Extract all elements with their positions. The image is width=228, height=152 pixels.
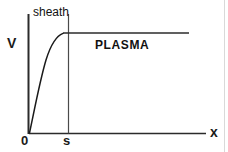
- plot-canvas: [0, 0, 228, 152]
- y-axis-label: V: [7, 36, 16, 50]
- origin-tick-label: 0: [21, 134, 28, 147]
- potential-curve: [30, 33, 64, 133]
- sheath-region-label: sheath: [33, 6, 69, 18]
- x-axis-label: x: [210, 125, 218, 139]
- sheath-edge-tick-label: s: [63, 134, 70, 147]
- plasma-region-label: PLASMA: [95, 39, 149, 51]
- image-right-border: [224, 0, 225, 152]
- sheath-potential-diagram: V x 0 s sheath PLASMA: [0, 0, 228, 152]
